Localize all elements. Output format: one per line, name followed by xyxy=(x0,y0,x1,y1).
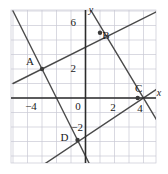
point-label-D: D xyxy=(61,131,69,143)
x-axis-name: x xyxy=(156,87,162,98)
figure-background xyxy=(0,0,168,174)
point-label-A: A xyxy=(26,55,34,67)
y-axis-name: y xyxy=(88,4,94,15)
y-tick-label-6: 6 xyxy=(71,16,77,28)
x-tick-label-neg4: −4 xyxy=(25,100,37,112)
point-marker-A xyxy=(40,67,44,71)
origin-label: 0 xyxy=(75,100,81,112)
y-tick-label-2: 2 xyxy=(71,62,77,74)
x-tick-label-4: 4 xyxy=(137,102,143,114)
point-marker-C xyxy=(136,96,140,100)
x-tick-label-2: 2 xyxy=(110,101,116,113)
y-tick-label-neg2: −2 xyxy=(71,121,83,133)
coordinate-grid-figure: ABCD 6 2 −2 0 −4 2 4 x y xyxy=(0,0,168,174)
graph-canvas: ABCD 6 2 −2 0 −4 2 4 x y xyxy=(0,0,168,174)
point-label-C: C xyxy=(135,82,142,94)
point-marker-D xyxy=(75,138,79,142)
point-label-B: B xyxy=(102,29,109,41)
